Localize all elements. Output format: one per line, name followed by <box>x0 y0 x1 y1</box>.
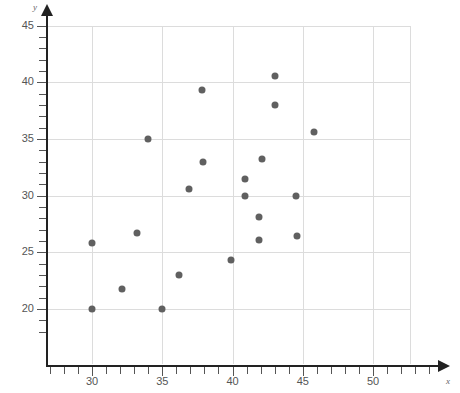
data-point <box>198 87 205 94</box>
x-axis-line <box>46 365 440 367</box>
x-axis-tick-minor <box>289 366 290 374</box>
data-point <box>242 175 249 182</box>
data-point <box>259 156 266 163</box>
x-axis-tick-minor <box>415 366 416 374</box>
x-axis-tick-minor <box>78 366 79 374</box>
x-axis-tick-minor <box>401 366 402 374</box>
y-axis-tick-label: 40 <box>8 75 34 87</box>
data-point <box>310 129 317 136</box>
y-axis-arrow-icon <box>41 4 53 16</box>
data-point <box>271 102 278 109</box>
data-point <box>242 192 249 199</box>
y-axis-line <box>46 14 48 366</box>
gridline-horizontal <box>48 82 410 83</box>
gridline-horizontal <box>48 196 410 197</box>
gridline-horizontal <box>48 26 410 27</box>
gridline-horizontal <box>48 139 410 140</box>
data-point <box>185 185 192 192</box>
x-axis-tick-minor <box>331 366 332 374</box>
x-axis-tick-label: 45 <box>288 375 318 387</box>
data-point <box>145 136 152 143</box>
data-point <box>89 306 96 313</box>
x-axis-tick-minor <box>64 366 65 374</box>
x-axis-tick-minor <box>317 366 318 374</box>
y-axis-tick-label: 20 <box>8 302 34 314</box>
scatter-plot-figure: 2025303540453035404550 y x <box>0 0 460 393</box>
y-axis-tick-label: 45 <box>8 19 34 31</box>
y-axis-tick-label: 25 <box>8 245 34 257</box>
x-axis-tick-minor <box>50 366 51 374</box>
data-point <box>228 257 235 264</box>
gridline-horizontal <box>48 309 410 310</box>
x-axis-tick-minor <box>120 366 121 374</box>
x-axis-tick-minor <box>359 366 360 374</box>
data-point <box>294 233 301 240</box>
x-axis-tick-minor <box>204 366 205 374</box>
y-axis-label: y <box>33 2 37 12</box>
x-axis-tick-minor <box>148 366 149 374</box>
x-axis-tick-minor <box>261 366 262 374</box>
x-axis-tick-minor <box>387 366 388 374</box>
x-axis-tick-minor <box>345 366 346 374</box>
data-point <box>292 192 299 199</box>
x-axis-tick-minor <box>106 366 107 374</box>
x-axis-tick-label: 35 <box>147 375 177 387</box>
gridline-vertical <box>410 26 411 364</box>
data-point <box>176 272 183 279</box>
data-point <box>89 240 96 247</box>
x-axis-tick-label: 30 <box>77 375 107 387</box>
x-axis-tick-minor <box>247 366 248 374</box>
gridline-horizontal <box>48 252 410 253</box>
data-point <box>159 306 166 313</box>
data-point <box>199 158 206 165</box>
x-axis-tick-minor <box>190 366 191 374</box>
x-axis-tick-label: 50 <box>358 375 388 387</box>
y-axis-tick-label: 30 <box>8 189 34 201</box>
data-point <box>256 214 263 221</box>
x-axis-tick-label: 40 <box>218 375 248 387</box>
data-point <box>118 285 125 292</box>
x-axis-tick-minor <box>176 366 177 374</box>
y-axis-tick-label: 35 <box>8 132 34 144</box>
data-point <box>133 230 140 237</box>
x-axis-tick-minor <box>134 366 135 374</box>
x-axis-label: x <box>446 376 450 386</box>
x-axis-arrow-icon <box>438 360 450 372</box>
data-point <box>271 72 278 79</box>
data-point <box>256 236 263 243</box>
x-axis-tick-minor <box>218 366 219 374</box>
x-axis-tick-minor <box>275 366 276 374</box>
x-axis-tick-minor <box>429 366 430 374</box>
